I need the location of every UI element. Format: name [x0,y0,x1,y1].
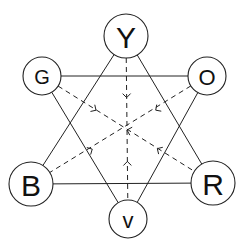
dashed-edges [50,58,195,200]
node-Y: Y [104,14,148,58]
arrow-icon-V [123,162,131,166]
node-label: v [123,208,134,233]
edge-G-V [52,92,118,202]
node-O: O [188,57,226,95]
node-B: B [9,162,53,206]
solid-edges [43,55,202,203]
arrowheads [87,94,163,166]
node-label: O [198,65,215,90]
node-label: Y [116,21,136,54]
edge-O-V [137,93,198,203]
edge-B-R [53,183,191,184]
node-V: v [109,200,147,238]
node-label: B [21,169,41,202]
arrow-icon-G [90,105,96,112]
dashed-edge-O-B [50,86,191,173]
node-label: R [202,168,224,201]
arrow-icon-R [157,147,163,154]
node-R: R [191,161,235,205]
color-hexagram-diagram: YGOBRv [0,0,246,249]
node-label: G [34,66,50,88]
node-G: G [23,57,61,95]
